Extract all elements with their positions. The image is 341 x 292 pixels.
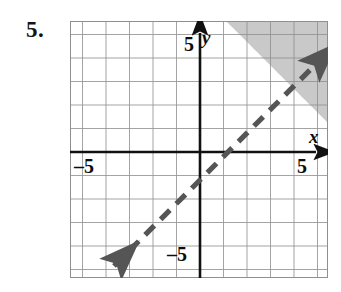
x-axis-tick-label-negative-5: –5 <box>74 156 94 176</box>
problem-number: 5. <box>26 18 44 41</box>
coordinate-plane: –5 5 5 –5 x y <box>70 21 328 278</box>
y-axis-name-label: y <box>202 28 210 47</box>
x-axis-name-label: x <box>309 127 319 146</box>
graph-svg <box>70 21 328 278</box>
y-axis-tick-label-negative-5: –5 <box>167 244 187 264</box>
graph-figure: 5. <box>0 0 341 292</box>
x-axis-tick-label-positive-5: 5 <box>297 156 307 176</box>
y-axis-tick-label-positive-5: 5 <box>184 34 194 54</box>
